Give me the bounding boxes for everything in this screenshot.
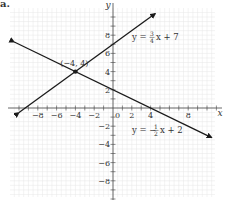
x-tick-label: 4 — [148, 111, 153, 120]
y-tick-label: −4 — [98, 140, 110, 149]
equation-prefix: y = − — [131, 125, 156, 135]
equation-label-2: y = −12x + 2 — [131, 123, 183, 137]
y-tick-label: −2 — [98, 122, 110, 131]
x-axis-label: x — [217, 108, 222, 118]
equation-label-1: y = 34x + 7 — [131, 30, 179, 44]
x-tick-label: −8 — [32, 111, 44, 120]
x-tick-label: −2 — [88, 111, 100, 120]
x-tick-label: −4 — [70, 111, 82, 120]
fraction-numerator: 1 — [154, 123, 158, 130]
y-tick-label: 6 — [105, 49, 110, 58]
y-axis-label: y — [104, 0, 111, 10]
coordinate-plane-chart: −8−6−4−202488642−2−4−6−8xy(−4, 4)y = 34x… — [0, 0, 230, 215]
y-tick-label: 8 — [105, 31, 110, 40]
intersection-point — [73, 69, 77, 73]
y-tick-label: 4 — [105, 68, 110, 77]
y-tick-label: −6 — [98, 159, 110, 168]
x-tick-label: 0 — [115, 111, 120, 120]
fraction-numerator: 3 — [150, 30, 154, 37]
x-tick-label: 8 — [186, 111, 191, 120]
fraction-denominator: 4 — [150, 37, 154, 44]
fraction-denominator: 2 — [154, 130, 158, 137]
y-tick-label: 2 — [105, 86, 110, 95]
equation-prefix: y = — [131, 32, 147, 42]
equation-suffix: x + 2 — [160, 125, 183, 135]
intersection-label: (−4, 4) — [60, 59, 88, 68]
equation-suffix: x + 7 — [156, 32, 179, 42]
x-tick-label: 2 — [129, 111, 134, 120]
x-tick-label: −6 — [51, 111, 63, 120]
y-tick-label: −8 — [98, 177, 110, 186]
grid-lines — [10, 8, 215, 197]
axes — [8, 3, 222, 200]
